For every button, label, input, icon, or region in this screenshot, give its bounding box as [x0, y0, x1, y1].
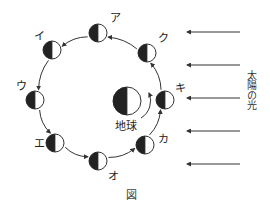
- figure-caption: 図: [126, 186, 137, 202]
- moon-6-icon: [136, 136, 154, 154]
- moon-label: エ: [34, 137, 45, 150]
- moon-phase-diagram: 地球 アイウエオカキク: [0, 0, 270, 212]
- orbit-arrow-icon: [40, 110, 51, 133]
- moon-label: イ: [34, 30, 45, 43]
- moon-label: オ: [108, 170, 119, 183]
- moon-3-icon: [26, 91, 44, 109]
- moon-5-icon: [89, 152, 107, 170]
- moons: アイウエオカキク: [16, 12, 186, 183]
- moon-2-icon: [43, 41, 61, 59]
- moon-label: カ: [158, 133, 169, 146]
- earth-globe-icon: [113, 87, 141, 115]
- earth-label: 地球: [115, 119, 137, 133]
- orbit-arrow-icon: [108, 37, 137, 49]
- orbit-arrow-icon: [65, 147, 88, 157]
- moon-label: ア: [110, 12, 121, 25]
- sunlight-arrows: [187, 32, 240, 164]
- orbit-arrow-icon: [108, 149, 134, 158]
- moon-label: ウ: [16, 80, 27, 93]
- moon-7-icon: [156, 91, 174, 109]
- moon-label: ク: [158, 32, 169, 45]
- orbit-arrow-icon: [149, 110, 160, 135]
- moon-8-icon: [138, 44, 156, 62]
- moon-4-icon: [46, 134, 64, 152]
- orbit-arrow-icon: [39, 60, 49, 89]
- sunlight-label: 太陽の光: [244, 70, 256, 110]
- rotation-arrow-icon: [141, 93, 151, 118]
- moon-label: キ: [175, 82, 186, 95]
- moon-1-icon: [89, 24, 107, 42]
- earth: 地球: [113, 87, 151, 133]
- orbit-arrow-icon: [62, 37, 87, 46]
- orbit-arrow-icon: [151, 63, 161, 89]
